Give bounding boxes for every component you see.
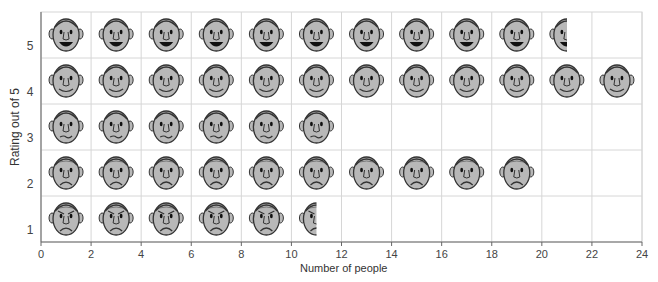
face-icon-neutral	[249, 111, 283, 143]
x-tick-label: 24	[636, 248, 648, 260]
face-icon-angry	[149, 203, 183, 235]
face-icon-laughing	[149, 19, 183, 51]
face-icon-neutral	[299, 111, 333, 143]
face-icon-smiling	[400, 65, 434, 97]
face-icon-sad	[149, 157, 183, 189]
face-icon-angry	[99, 203, 133, 235]
face-icon-neutral	[49, 111, 83, 143]
y-axis-label: Rating out of 5	[8, 72, 22, 182]
face-icon-angry	[249, 203, 283, 235]
face-icon-sad	[450, 157, 484, 189]
face-icon-sad	[500, 157, 534, 189]
face-icon-sad	[249, 157, 283, 189]
pictogram-row-rating-5	[49, 19, 584, 51]
x-axis-label: Number of people	[300, 262, 387, 274]
face-icon-smiling	[49, 65, 83, 97]
face-icon-smiling	[350, 65, 384, 97]
face-icon-sad	[350, 157, 384, 189]
face-icon-sad	[49, 157, 83, 189]
face-icon-laughing	[199, 19, 233, 51]
face-icon-laughing	[49, 19, 83, 51]
face-icon-laughing	[249, 19, 283, 51]
face-icon-smiling	[500, 65, 534, 97]
face-icon-neutral	[149, 111, 183, 143]
face-icon-laughing	[299, 19, 333, 51]
face-icon-sad	[99, 157, 133, 189]
face-icon-sad	[400, 157, 434, 189]
x-tick-label: 4	[138, 248, 144, 260]
face-icon-angry	[199, 203, 233, 235]
face-icon-neutral	[199, 111, 233, 143]
face-icon-laughing	[99, 19, 133, 51]
face-icon-sad	[299, 157, 333, 189]
x-tick-label: 10	[285, 248, 297, 260]
face-icon-smiling	[249, 65, 283, 97]
face-icon-angry	[49, 203, 83, 235]
face-icon-smiling	[299, 65, 333, 97]
y-tick-label: 4	[27, 85, 34, 99]
face-icon-angry	[299, 203, 333, 235]
x-tick-label: 2	[88, 248, 94, 260]
pictogram-chart: 02468101214161820222454321	[0, 0, 658, 282]
face-icon-smiling	[550, 65, 584, 97]
y-tick-label: 5	[27, 39, 34, 53]
face-icon-smiling	[450, 65, 484, 97]
partial-face	[299, 203, 333, 235]
face-icon-sad	[199, 157, 233, 189]
y-tick-label: 2	[27, 177, 34, 191]
face-icon-laughing	[500, 19, 534, 51]
partial-face	[550, 19, 584, 51]
x-tick-label: 14	[385, 248, 397, 260]
face-icon-laughing	[550, 19, 584, 51]
y-tick-label: 1	[27, 223, 34, 237]
x-tick-label: 12	[335, 248, 347, 260]
face-icon-smiling	[199, 65, 233, 97]
face-icon-smiling	[149, 65, 183, 97]
x-tick-label: 18	[486, 248, 498, 260]
face-icon-smiling	[99, 65, 133, 97]
face-icon-laughing	[450, 19, 484, 51]
x-tick-label: 0	[38, 248, 44, 260]
face-icon-laughing	[400, 19, 434, 51]
face-icon-laughing	[350, 19, 384, 51]
x-tick-label: 20	[536, 248, 548, 260]
face-icon-neutral	[99, 111, 133, 143]
x-tick-label: 16	[436, 248, 448, 260]
face-icon-smiling	[600, 65, 634, 97]
x-tick-label: 8	[238, 248, 244, 260]
x-tick-label: 6	[188, 248, 194, 260]
y-tick-label: 3	[27, 131, 34, 145]
x-tick-label: 22	[586, 248, 598, 260]
